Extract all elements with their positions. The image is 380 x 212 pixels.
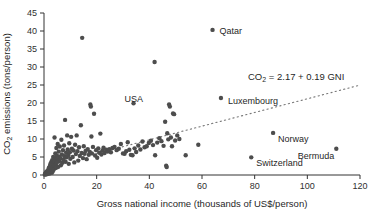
data-point — [89, 134, 93, 138]
data-point — [77, 145, 81, 149]
data-point — [168, 104, 172, 108]
annotation-label-switzerland: Switzerland — [256, 158, 303, 168]
data-point — [177, 137, 181, 141]
annotation-label-qatar: Qatar — [220, 26, 243, 36]
data-point — [109, 150, 113, 154]
y-tick-label: 20 — [27, 98, 37, 108]
data-point — [126, 140, 130, 144]
co2-gni-scatter-chart: 020406080100120051015202530354045Gross n… — [0, 0, 380, 212]
data-point — [59, 138, 63, 142]
data-point — [163, 120, 167, 124]
y-tick-label: 35 — [27, 44, 37, 54]
data-point — [89, 104, 93, 108]
x-tick-label: 0 — [41, 181, 46, 191]
data-point — [69, 135, 73, 139]
data-point — [334, 147, 338, 151]
data-point — [84, 157, 88, 161]
x-axis-title: Gross national income (thousands of US$/… — [97, 198, 308, 209]
data-point — [63, 118, 67, 122]
data-point — [134, 150, 138, 154]
data-point — [165, 165, 169, 169]
data-point — [75, 149, 79, 153]
data-point — [62, 143, 66, 147]
data-point — [72, 160, 76, 164]
x-tick-label: 100 — [300, 181, 315, 191]
data-point — [67, 141, 71, 145]
annotation-label-usa: USA — [125, 94, 144, 104]
annotation-label-norway: Norway — [278, 134, 309, 144]
data-point — [119, 142, 123, 146]
data-point — [92, 112, 96, 116]
data-point — [91, 145, 95, 149]
y-tick-label: 10 — [27, 134, 37, 144]
data-point — [173, 138, 177, 142]
data-point — [95, 156, 99, 160]
data-point — [76, 158, 80, 162]
data-point — [172, 112, 176, 116]
data-point — [183, 153, 187, 157]
annotation-label-bermuda: Bermuda — [298, 151, 335, 161]
data-point — [169, 135, 173, 139]
data-point — [196, 143, 200, 147]
x-tick-label: 60 — [197, 181, 207, 191]
y-title-post: emissions (tons/person) — [1, 33, 12, 136]
data-point — [271, 131, 275, 135]
plot-area: 020406080100120051015202530354045Gross n… — [0, 0, 380, 212]
x-tick-label: 20 — [92, 181, 102, 191]
data-point — [79, 123, 83, 127]
data-point — [58, 144, 62, 148]
data-point — [149, 139, 153, 143]
data-point — [161, 144, 165, 148]
data-point — [219, 96, 223, 100]
data-point — [127, 148, 131, 152]
data-point — [210, 28, 214, 32]
y-tick-label: 25 — [27, 80, 37, 90]
data-point — [159, 139, 163, 143]
data-point — [80, 36, 84, 40]
x-tick-label: 80 — [250, 181, 260, 191]
y-tick-label: 30 — [27, 62, 37, 72]
data-point — [71, 148, 75, 152]
data-point — [67, 162, 71, 166]
data-point — [155, 140, 159, 144]
trendline-equation-label: CO2 = 2.17 + 0.19 GNI — [248, 71, 344, 83]
data-point — [152, 60, 156, 64]
data-point — [73, 143, 77, 147]
eq-post: = 2.17 + 0.19 GNI — [266, 71, 344, 82]
y-tick-label: 45 — [27, 8, 37, 18]
data-point — [98, 131, 102, 135]
annotation-label-luxembourg: Luxembourg — [228, 96, 278, 106]
data-point — [151, 143, 155, 147]
y-tick-label: 0 — [32, 170, 37, 180]
data-point — [117, 147, 121, 151]
y-axis-title-text: CO2 emissions (tons/person) — [1, 33, 13, 155]
data-point — [74, 133, 78, 137]
y-title-pre: CO — [1, 141, 12, 155]
data-point — [138, 147, 142, 151]
data-point — [96, 146, 100, 150]
x-tick-label: 40 — [144, 181, 154, 191]
y-tick-label: 5 — [32, 152, 37, 162]
data-point — [65, 133, 69, 137]
data-point — [140, 139, 144, 143]
data-point — [82, 144, 86, 148]
data-point — [136, 143, 140, 147]
data-point — [249, 155, 253, 159]
data-point — [165, 131, 169, 135]
data-point — [170, 144, 174, 148]
data-point — [52, 135, 56, 139]
eq-pre: CO — [248, 71, 262, 82]
x-tick-label: 120 — [352, 181, 367, 191]
y-tick-label: 15 — [27, 116, 37, 126]
y-tick-label: 40 — [27, 26, 37, 36]
data-point — [153, 153, 157, 157]
data-point — [130, 153, 134, 157]
y-axis-title: CO2 emissions (tons/person) — [1, 33, 13, 155]
